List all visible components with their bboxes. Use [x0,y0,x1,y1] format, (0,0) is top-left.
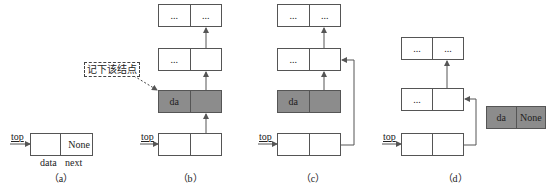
connector-lines [0,0,549,188]
detached-node: da None [486,106,546,129]
node-data-field: ... [278,5,309,26]
top-pointer-label: top [259,131,272,142]
node-next-field [309,49,341,70]
stack-node: ... [158,48,222,71]
callout-note: 记下该结点 [84,62,140,77]
node-data-field [159,134,190,155]
linked-stack-diagram: top None data next （a） ... ... ... da to… [0,0,549,188]
stack-node: ... [277,48,341,71]
node-next-field [432,134,463,155]
node-data-field: ... [278,49,309,70]
top-pointer-label: top [141,131,154,142]
node-data-field [402,134,432,155]
node-next-field: ... [309,5,341,26]
popped-node: da [277,90,341,113]
node-data-field: da [278,91,309,112]
node-data-field: da [487,107,516,128]
node-next-field [432,89,463,110]
node-next-field [190,91,222,112]
panel-label-b: （b） [178,170,203,185]
stack-node: ... ... [401,37,464,60]
top-pointer-label: top [11,131,24,142]
stack-node: ... ... [277,4,341,27]
top-node [401,133,464,156]
node-data-field [278,134,309,155]
node-next-field [309,91,341,112]
node-data-field: da [159,91,190,112]
next-field-label: next [65,157,82,168]
node-data-field: ... [402,89,432,110]
node-next-field: ... [190,5,222,26]
data-field-label: data [40,157,57,168]
top-pointer-label: top [383,131,396,142]
panel-label-d: （d） [443,170,468,185]
panel-label-a: （a） [49,170,73,185]
panel-label-c: （c） [301,170,325,185]
node-next-field: None [60,134,92,155]
node-data-field: ... [402,38,432,59]
stack-node: ... [401,88,464,111]
node-next-field [309,134,341,155]
node-next-field: None [516,107,546,128]
stack-node: ... ... [158,4,222,27]
node-data-field: ... [159,5,190,26]
node-next-field [190,134,222,155]
top-node [277,133,341,156]
node-next-field: ... [432,38,463,59]
top-node [158,133,222,156]
popped-node: da [158,90,222,113]
node-data-field: ... [159,49,190,70]
node-next-field [190,49,222,70]
stack-node: None [30,133,93,156]
node-data-field [31,134,60,155]
